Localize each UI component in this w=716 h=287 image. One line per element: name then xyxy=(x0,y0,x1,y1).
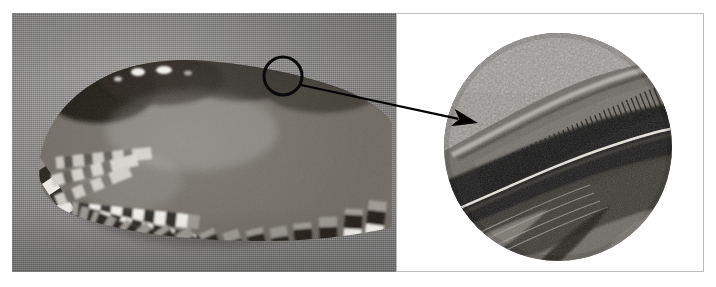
left-panel-description: Grayscale photograph of a folded owl win… xyxy=(0,0,1,1)
figure-container: Owl wing with magnified detail of leadin… xyxy=(0,0,716,287)
figure-title: Owl wing with magnified detail of leadin… xyxy=(0,0,1,1)
wing-photograph-panel xyxy=(12,13,396,272)
magnified-detail-panel xyxy=(396,13,704,272)
right-panel-description: Circular close-up inset showing the comb… xyxy=(0,0,1,1)
magnified-detail-circle xyxy=(444,33,672,261)
feather-serration-closeup xyxy=(444,33,672,261)
owl-wing-illustration xyxy=(12,13,396,272)
